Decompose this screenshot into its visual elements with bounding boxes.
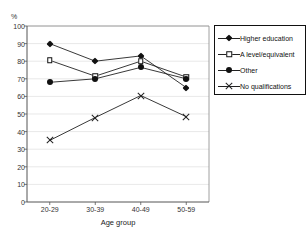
data-point-marker-filled-diamond	[46, 40, 53, 47]
legend-item-label: No qualifications	[240, 82, 291, 91]
legend-item[interactable]: A level/equivalent	[218, 46, 302, 62]
x-axis-tick-label: 30-39	[75, 206, 115, 213]
x-axis-title: Age group	[28, 218, 208, 227]
data-point-marker-filled-circle	[183, 76, 189, 82]
x-axis-tick-label: 20-29	[30, 206, 70, 213]
legend-marker-filled-diamond-icon	[218, 31, 240, 45]
legend-marker-cross-icon	[218, 79, 240, 93]
legend: Higher education A level/equivalent Othe…	[214, 25, 306, 95]
legend-marker-filled-circle-icon	[218, 63, 240, 77]
line-chart: % 1009080706050403020100 20-2930-3940-49…	[0, 0, 308, 233]
data-point-marker-open-square	[47, 58, 53, 64]
data-point-marker-cross	[45, 136, 54, 145]
data-point-marker-filled-circle	[138, 64, 144, 70]
x-axis-tick-label: 50-59	[166, 206, 206, 213]
legend-item[interactable]: Other	[218, 62, 302, 78]
data-point-marker-filled-circle	[47, 79, 53, 85]
data-point-marker-cross	[91, 113, 100, 122]
legend-marker-open-square-icon	[218, 47, 240, 61]
data-point-marker-filled-diamond	[92, 58, 99, 65]
data-point-marker-filled-circle	[92, 76, 98, 82]
legend-item-label: Other	[240, 66, 258, 75]
legend-item[interactable]: Higher education	[218, 30, 302, 46]
data-point-marker-open-square	[138, 58, 144, 64]
legend-item-label: A level/equivalent	[240, 50, 294, 59]
legend-item-label: Higher education	[240, 34, 293, 43]
legend-item[interactable]: No qualifications	[218, 78, 302, 94]
data-point-marker-cross	[136, 91, 145, 100]
x-axis-tick-label: 40-49	[121, 206, 161, 213]
data-point-marker-filled-diamond	[183, 84, 190, 91]
data-point-marker-cross	[182, 112, 191, 121]
